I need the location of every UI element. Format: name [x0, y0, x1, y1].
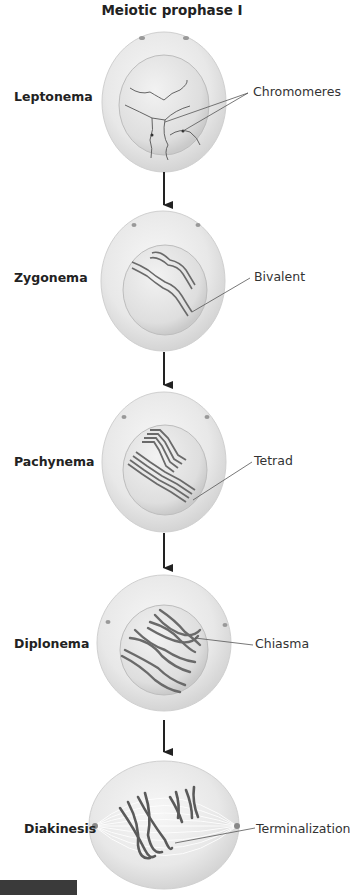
cell-pachynema [102, 392, 226, 532]
centrosome-icon [223, 623, 228, 627]
cell-zygonema [101, 211, 225, 351]
centrosome-icon [122, 415, 127, 419]
centrosome-icon [205, 415, 210, 419]
footer-bar [0, 880, 77, 895]
stage-label-diplonema: Diplonema [14, 636, 89, 651]
cell-diplonema [97, 575, 231, 711]
stage-label-leptonema: Leptonema [14, 89, 93, 104]
callout-chromomeres: Chromomeres [253, 84, 341, 99]
centrosome-icon [196, 223, 201, 227]
stage-label-pachynema: Pachynema [14, 454, 95, 469]
centrosome-icon [139, 36, 145, 40]
cell-leptonema [102, 32, 226, 172]
stage-label-diakinesis: Diakinesis [24, 821, 96, 836]
centrosome-icon [106, 620, 111, 624]
cell-diakinesis [89, 761, 240, 889]
stage-label-zygonema: Zygonema [14, 270, 88, 285]
centrosome-icon [132, 223, 137, 227]
centrosome-icon [183, 36, 189, 40]
callout-bivalent: Bivalent [254, 269, 305, 284]
callout-chiasma: Chiasma [255, 636, 309, 651]
callout-terminalization: Terminalization [256, 821, 350, 836]
chromomere-dot [151, 134, 154, 137]
callout-tetrad: Tetrad [254, 453, 293, 468]
centrosome-icon [234, 823, 240, 829]
